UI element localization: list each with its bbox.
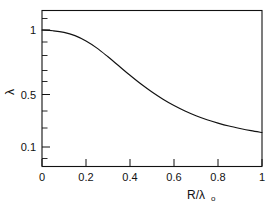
y-tick-label-1: 1 xyxy=(30,24,36,36)
x-axis-title: R/λ o xyxy=(187,188,216,203)
x-tick-label-0.4: 0.4 xyxy=(122,171,137,183)
chart-canvas: 1 0.5 0.1 λ 0 0.2 0.4 0.6 0.8 1 R/λ o xyxy=(0,0,270,210)
y-tick-label-0.5: 0.5 xyxy=(21,89,36,101)
chart-figure: 1 0.5 0.1 λ 0 0.2 0.4 0.6 0.8 1 R/λ o xyxy=(0,0,270,210)
y-axis-major-ticks xyxy=(42,30,50,147)
x-tick-label-0.2: 0.2 xyxy=(78,171,93,183)
x-axis-ticks xyxy=(42,159,262,166)
x-axis-title-subscript: o xyxy=(211,194,216,203)
x-tick-label-0: 0 xyxy=(39,171,45,183)
data-curve-line xyxy=(42,30,262,133)
x-tick-label-0.8: 0.8 xyxy=(210,171,225,183)
y-axis-title: λ xyxy=(3,89,17,95)
y-axis-minor-ticks xyxy=(42,19,48,159)
plot-frame xyxy=(42,11,262,167)
x-tick-label-1: 1 xyxy=(259,171,265,183)
x-axis-title-main: R/λ xyxy=(187,188,205,202)
y-tick-label-0.1: 0.1 xyxy=(21,141,36,153)
x-tick-label-0.6: 0.6 xyxy=(166,171,181,183)
